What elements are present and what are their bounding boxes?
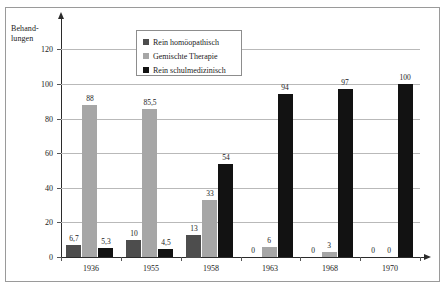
legend-swatch-icon-0 (143, 39, 149, 45)
bar (262, 247, 277, 257)
bar-value-label: 13 (190, 224, 198, 233)
legend-label-1: Gemischte Therapie (153, 52, 218, 61)
bar-value-label: 6,7 (69, 234, 78, 243)
bar (398, 84, 413, 257)
bar-value-label: 100 (399, 73, 410, 82)
bar (82, 105, 97, 257)
x-axis-tickmark (360, 257, 361, 261)
x-axis-tickmark (181, 257, 182, 261)
bar-value-label: 6 (267, 236, 271, 245)
bar (158, 249, 173, 257)
bar-value-label: 33 (206, 189, 214, 198)
bar (66, 245, 81, 257)
x-axis-tickmark (121, 257, 122, 261)
bar-value-label: 0 (311, 246, 315, 255)
bar-value-label: 4,5 (161, 238, 170, 247)
x-axis-tickmark (61, 257, 62, 261)
bar-value-label: 10 (130, 229, 138, 238)
bar-value-label: 85,5 (143, 98, 156, 107)
legend-swatch-icon-1 (143, 53, 149, 59)
bar (98, 248, 113, 257)
x-axis-tick-label: 1968 (322, 264, 338, 273)
legend-item-2: Rein schulmedizinisch (143, 64, 235, 76)
bar (202, 200, 217, 257)
x-axis-tickmark (420, 257, 421, 261)
x-axis-tick-label: 1936 (83, 264, 99, 273)
legend-label-2: Rein schulmedizinisch (153, 66, 226, 75)
legend-label-0: Rein homöopathisch (153, 38, 219, 47)
bar-value-label: 0 (371, 246, 375, 255)
x-axis-tick-label: 1958 (203, 264, 219, 273)
bar (218, 164, 233, 257)
bar-value-label: 3 (327, 241, 331, 250)
bar (126, 240, 141, 257)
bar (278, 94, 293, 257)
chart-legend: Rein homöopathisch Gemischte Therapie Re… (136, 30, 242, 76)
x-axis-tick-label: 1970 (382, 264, 398, 273)
bar-value-label: 5,3 (101, 237, 110, 246)
bar (142, 109, 157, 257)
x-axis-tickmark (300, 257, 301, 261)
bar (338, 89, 353, 257)
legend-item-0: Rein homöopathisch (143, 36, 235, 48)
x-axis-tickmark (241, 257, 242, 261)
bar-value-label: 0 (387, 246, 391, 255)
bar-value-label: 88 (86, 94, 94, 103)
legend-item-1: Gemischte Therapie (143, 50, 235, 62)
bar-value-label: 54 (222, 153, 230, 162)
x-axis-tick-label: 1955 (143, 264, 159, 273)
bar (322, 252, 337, 257)
x-axis-tick-label: 1963 (262, 264, 278, 273)
bar-value-label: 94 (281, 83, 289, 92)
bar-value-label: 97 (341, 78, 349, 87)
bar (186, 235, 201, 258)
bar-value-label: 0 (251, 246, 255, 255)
legend-swatch-icon-2 (143, 67, 149, 73)
chart-plot-area: Behand- lungen 020406080100120 6,7885,31… (0, 0, 447, 290)
